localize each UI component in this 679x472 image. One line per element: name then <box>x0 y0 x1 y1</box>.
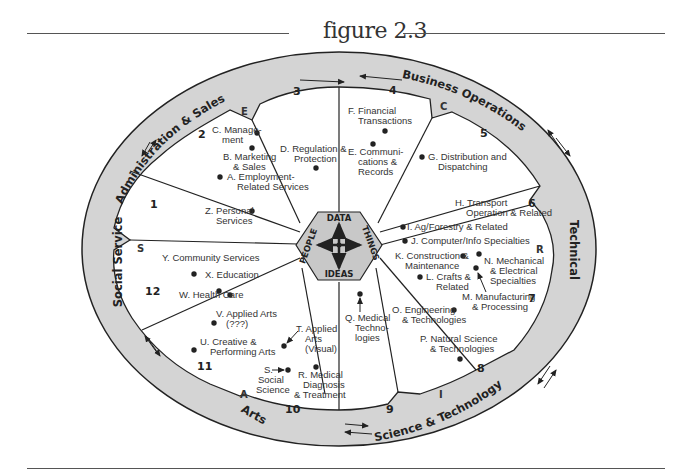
footer-rule <box>27 468 665 469</box>
job-family-j: J. Computer/Info Specialties <box>411 235 530 246</box>
letter-i: I <box>439 389 443 400</box>
svg-text:Records: Records <box>358 166 394 177</box>
svg-text:(Visual): (Visual) <box>305 343 337 354</box>
hub-label-data: DATA <box>327 213 352 223</box>
svg-text:Operation & Related: Operation & Related <box>466 207 552 218</box>
letter-a: A <box>240 389 248 400</box>
letter-c: C <box>440 101 447 112</box>
region-number: 11 <box>197 360 212 373</box>
job-family-y: Y. Community Services <box>162 252 260 263</box>
world-of-work-diagram: DATA IDEAS PEOPLE THINGS Administration … <box>0 0 679 472</box>
svg-text:logies: logies <box>355 332 380 343</box>
svg-text:Specialties: Specialties <box>490 275 536 286</box>
svg-text:Services: Services <box>216 215 253 226</box>
ring-label-technical: Technical <box>567 220 581 280</box>
hub-label-ideas: IDEAS <box>325 269 354 279</box>
letter-e: E <box>241 106 248 117</box>
region-number: 1 <box>150 198 158 211</box>
ring-label-social-service: Social Service <box>111 217 125 308</box>
region-number: 5 <box>480 127 488 140</box>
svg-text:& Technologies: & Technologies <box>430 343 495 354</box>
svg-text:& Treatment: & Treatment <box>294 389 346 400</box>
svg-text:& Technologies: & Technologies <box>402 314 467 325</box>
svg-text:Dispatching: Dispatching <box>438 161 488 172</box>
region-number: 3 <box>293 85 301 98</box>
svg-text:(???): (???) <box>226 318 248 329</box>
region-number: 2 <box>198 128 206 141</box>
region-number: 4 <box>389 84 397 97</box>
svg-text:Protection: Protection <box>294 153 337 164</box>
svg-text:Related Services: Related Services <box>237 181 309 192</box>
region-number: 10 <box>285 403 301 416</box>
region-number: 12 <box>145 285 160 298</box>
svg-text:Science: Science <box>256 384 290 395</box>
job-family-x: X. Education <box>205 269 259 280</box>
svg-text:& Processing: & Processing <box>472 301 528 312</box>
svg-text:Transactions: Transactions <box>358 115 412 126</box>
letter-r: R <box>536 244 544 255</box>
region-number: 9 <box>386 403 394 416</box>
job-family-w: W. Health Care <box>179 289 243 300</box>
svg-text:ment: ment <box>222 134 243 145</box>
svg-text:Performing Arts: Performing Arts <box>210 346 276 357</box>
region-number: 8 <box>477 362 485 375</box>
svg-text:Maintenance: Maintenance <box>405 260 459 271</box>
letter-s: S <box>137 243 144 254</box>
job-family-i: I. Ag/Forestry & Related <box>407 221 508 232</box>
